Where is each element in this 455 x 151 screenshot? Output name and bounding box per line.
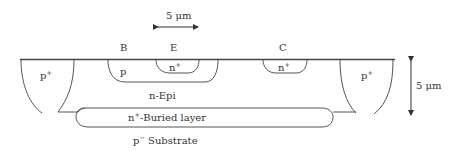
collector-contact-label-sup: +: [284, 61, 289, 69]
left-isolation-label: p+: [40, 70, 52, 81]
substrate-label-text: Substrate: [145, 135, 198, 146]
right-isolation-label-sup: +: [367, 69, 372, 77]
emitter-terminal-label: E: [170, 43, 177, 53]
left-isolation-label-sup: +: [46, 69, 51, 77]
vertical-scale-label: 5 μm: [416, 81, 442, 91]
horizontal-scale-label: 5 μm: [166, 11, 192, 21]
buried-layer-label-text: -Buried layer: [140, 112, 206, 123]
base-region-label: p: [120, 67, 126, 77]
left-isolation-outer-edge: [21, 60, 42, 113]
substrate-label: p− Substrate: [133, 135, 198, 146]
bjt-cross-section-diagram: 5 μm 5 μm B E C p+ p+ p n+ n+ n-Epi n+-B…: [0, 0, 455, 151]
right-isolation-outer-edge: [374, 60, 393, 114]
left-isolation-inner-edge: [58, 60, 85, 112]
epi-layer-label: n-Epi: [149, 91, 176, 101]
diagram-drawing: [0, 0, 455, 151]
right-isolation-label: p+: [361, 70, 373, 81]
base-terminal-label: B: [120, 43, 127, 53]
collector-terminal-label: C: [279, 43, 287, 53]
collector-contact-label: n+: [278, 62, 290, 73]
emitter-region-label-sup: +: [175, 61, 180, 69]
emitter-region-label: n+: [169, 62, 181, 73]
buried-layer-label: n+-Buried layer: [128, 112, 206, 123]
right-isolation-inner-edge: [340, 60, 356, 113]
